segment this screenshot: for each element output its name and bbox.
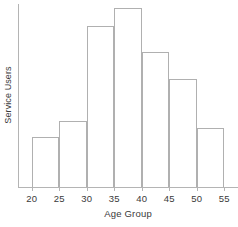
x-axis-tick — [142, 187, 143, 191]
x-axis-tick — [32, 187, 33, 191]
bar — [114, 8, 142, 187]
y-axis-title: Service Users — [0, 0, 16, 190]
x-axis-tick — [224, 187, 225, 191]
y-axis-title-text: Service Users — [3, 66, 13, 123]
x-axis-tick-label: 35 — [102, 193, 126, 204]
x-axis-tick-label: 30 — [75, 193, 99, 204]
x-axis-tick — [87, 187, 88, 191]
x-axis-tick-label: 20 — [20, 193, 44, 204]
bar — [32, 137, 60, 187]
y-axis-line — [18, 4, 19, 187]
x-axis-tick-label: 50 — [185, 193, 209, 204]
histogram-chart: Service Users 2025303540455055 Age Group — [0, 0, 238, 227]
x-axis-tick — [169, 187, 170, 191]
bar — [142, 52, 170, 187]
x-axis-tick-label: 55 — [212, 193, 236, 204]
x-axis-line — [18, 187, 238, 188]
x-axis-tick — [197, 187, 198, 191]
x-axis-tick-label: 40 — [130, 193, 154, 204]
bar — [169, 79, 197, 187]
x-axis-title: Age Group — [18, 208, 238, 219]
bar — [59, 121, 87, 187]
plot-area: 2025303540455055 — [18, 4, 238, 187]
x-axis-tick-label: 25 — [47, 193, 71, 204]
bar — [87, 26, 115, 187]
x-axis-tick — [114, 187, 115, 191]
x-axis-tick-label: 45 — [157, 193, 181, 204]
bar — [197, 128, 225, 187]
x-axis-tick — [59, 187, 60, 191]
